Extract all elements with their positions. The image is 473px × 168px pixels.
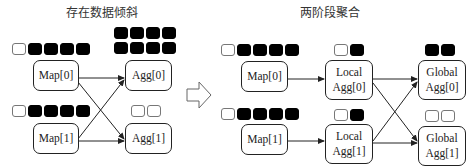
filled-block xyxy=(441,44,455,56)
global-agg0-node: Global Agg[0] xyxy=(418,60,466,100)
node-label-line1: Local xyxy=(336,65,362,80)
local-agg0-data-blocks xyxy=(334,44,364,56)
map0-data-blocks xyxy=(12,43,90,55)
filled-block xyxy=(253,44,267,56)
node-label: Map[1] xyxy=(247,132,282,147)
node-label: Map[1] xyxy=(39,131,74,146)
filled-block xyxy=(28,105,42,117)
node-label-line1: Local xyxy=(336,129,362,144)
hollow-block xyxy=(334,44,348,56)
left-agg0-node: Agg[0] xyxy=(125,60,172,91)
filled-block xyxy=(162,42,176,54)
filled-block xyxy=(162,27,176,39)
right-map1-data-blocks xyxy=(221,108,299,120)
node-label-line2: Agg[1] xyxy=(425,146,458,161)
right-map0-node: Map[0] xyxy=(241,61,288,92)
filled-block xyxy=(114,42,128,54)
node-label: Agg[0] xyxy=(132,68,165,83)
filled-block xyxy=(114,27,128,39)
filled-block xyxy=(237,108,251,120)
filled-block xyxy=(60,43,74,55)
filled-block xyxy=(130,42,144,54)
agg0-data-blocks-row2 xyxy=(114,42,176,54)
filled-block xyxy=(60,105,74,117)
node-label: Map[0] xyxy=(39,68,74,83)
hollow-block xyxy=(441,110,455,122)
filled-block xyxy=(146,42,160,54)
filled-block xyxy=(146,27,160,39)
hollow-block xyxy=(334,109,348,121)
filled-block xyxy=(76,105,90,117)
hollow-block xyxy=(12,43,26,55)
map1-data-blocks xyxy=(12,105,90,117)
agg1-data-blocks xyxy=(131,105,161,117)
hollow-block xyxy=(147,105,161,117)
right-map1-node: Map[1] xyxy=(241,124,288,155)
filled-block xyxy=(76,43,90,55)
node-label-line2: Agg[0] xyxy=(425,80,458,95)
filled-block xyxy=(350,44,364,56)
filled-block xyxy=(425,44,439,56)
local-agg1-node: Local Agg[1] xyxy=(325,124,373,164)
hollow-block xyxy=(221,44,235,56)
global-agg1-data-blocks xyxy=(425,110,455,122)
filled-block xyxy=(130,27,144,39)
node-label-line1: Global xyxy=(426,131,457,146)
filled-block xyxy=(237,44,251,56)
hollow-right-arrow-icon xyxy=(187,82,211,108)
filled-block xyxy=(28,43,42,55)
filled-block xyxy=(285,108,299,120)
hollow-block xyxy=(425,110,439,122)
global-agg1-node: Global Agg[1] xyxy=(418,126,466,166)
filled-block xyxy=(253,108,267,120)
left-map0-node: Map[0] xyxy=(33,60,79,91)
left-agg1-node: Agg[1] xyxy=(125,123,172,154)
node-label-line1: Global xyxy=(426,65,457,80)
hollow-block xyxy=(12,105,26,117)
local-agg1-data-blocks xyxy=(334,109,364,121)
filled-block xyxy=(269,44,283,56)
local-agg0-node: Local Agg[0] xyxy=(325,60,373,100)
hollow-block xyxy=(221,108,235,120)
filled-block xyxy=(269,108,283,120)
filled-block xyxy=(44,43,58,55)
node-label: Agg[1] xyxy=(132,131,165,146)
filled-block xyxy=(350,109,364,121)
filled-block xyxy=(44,105,58,117)
filled-block xyxy=(285,44,299,56)
hollow-block xyxy=(131,105,145,117)
right-map0-data-blocks xyxy=(221,44,299,56)
node-label-line2: Agg[1] xyxy=(332,144,365,159)
left-map1-node: Map[1] xyxy=(33,123,79,154)
node-label-line2: Agg[0] xyxy=(332,80,365,95)
agg0-data-blocks-row1 xyxy=(114,27,176,39)
global-agg0-data-blocks xyxy=(425,44,455,56)
node-label: Map[0] xyxy=(247,69,282,84)
